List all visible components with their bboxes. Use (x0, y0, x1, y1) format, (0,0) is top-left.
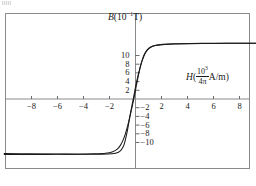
x-tick-label: 4 (179, 102, 197, 111)
x-tick-label: 8 (231, 102, 249, 111)
x-axis-title: H(1034πA/m) (186, 68, 229, 87)
x-axis-numerator: 103 (196, 68, 209, 76)
x-axis-denominator: 4π (196, 78, 209, 86)
x-tick-label: 6 (205, 102, 223, 111)
y-axis-close-paren: ) (139, 12, 142, 22)
x-tick-label: −6 (49, 102, 67, 111)
y-axis-title: B(10−1T) (108, 13, 142, 23)
x-tick-label: −8 (23, 102, 41, 111)
y-tick-label: −10 (141, 138, 157, 147)
y-tick-label: 2 (114, 86, 130, 95)
x-tick-label: −4 (75, 102, 93, 111)
x-axis-fraction: 1034π (196, 68, 209, 87)
x-tick-label: −2 (101, 102, 119, 111)
hysteresis-loop-figure: −8−6−4−22468108642−2−4−6−8−10 B(10−1T) H… (0, 0, 256, 186)
x-axis-symbol: H (186, 72, 193, 82)
x-axis-close-paren: ) (226, 72, 229, 82)
x-axis-unit: A/m (209, 72, 226, 82)
